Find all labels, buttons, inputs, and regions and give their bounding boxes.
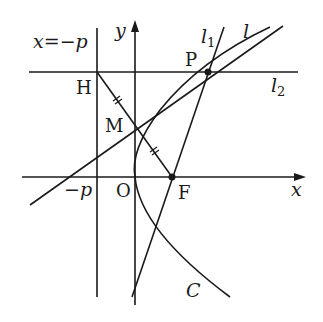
parabola-c bbox=[134, 27, 270, 297]
label-l2: l2 bbox=[271, 74, 285, 99]
label-y-axis: y bbox=[114, 19, 126, 41]
label-m: M bbox=[105, 115, 123, 136]
label-l1: l1 bbox=[201, 25, 215, 50]
diagram-canvas: x=−p y x l1 l l2 H P M −p O F C bbox=[0, 0, 323, 322]
point-p bbox=[205, 69, 212, 76]
label-x-axis: x bbox=[291, 178, 302, 200]
line-l1 bbox=[132, 27, 224, 297]
label-f: F bbox=[178, 182, 191, 203]
label-o: O bbox=[116, 180, 131, 201]
label-l: l bbox=[243, 20, 249, 42]
label-c: C bbox=[186, 279, 201, 301]
label-p: P bbox=[185, 49, 197, 70]
label-neg-p: −p bbox=[64, 178, 92, 200]
parabola-diagram: x=−p y x l1 l l2 H P M −p O F C bbox=[0, 0, 323, 322]
label-directrix: x=−p bbox=[33, 30, 88, 52]
y-axis-arrow-icon bbox=[131, 20, 139, 32]
label-h: H bbox=[76, 77, 92, 98]
point-f bbox=[169, 174, 176, 181]
